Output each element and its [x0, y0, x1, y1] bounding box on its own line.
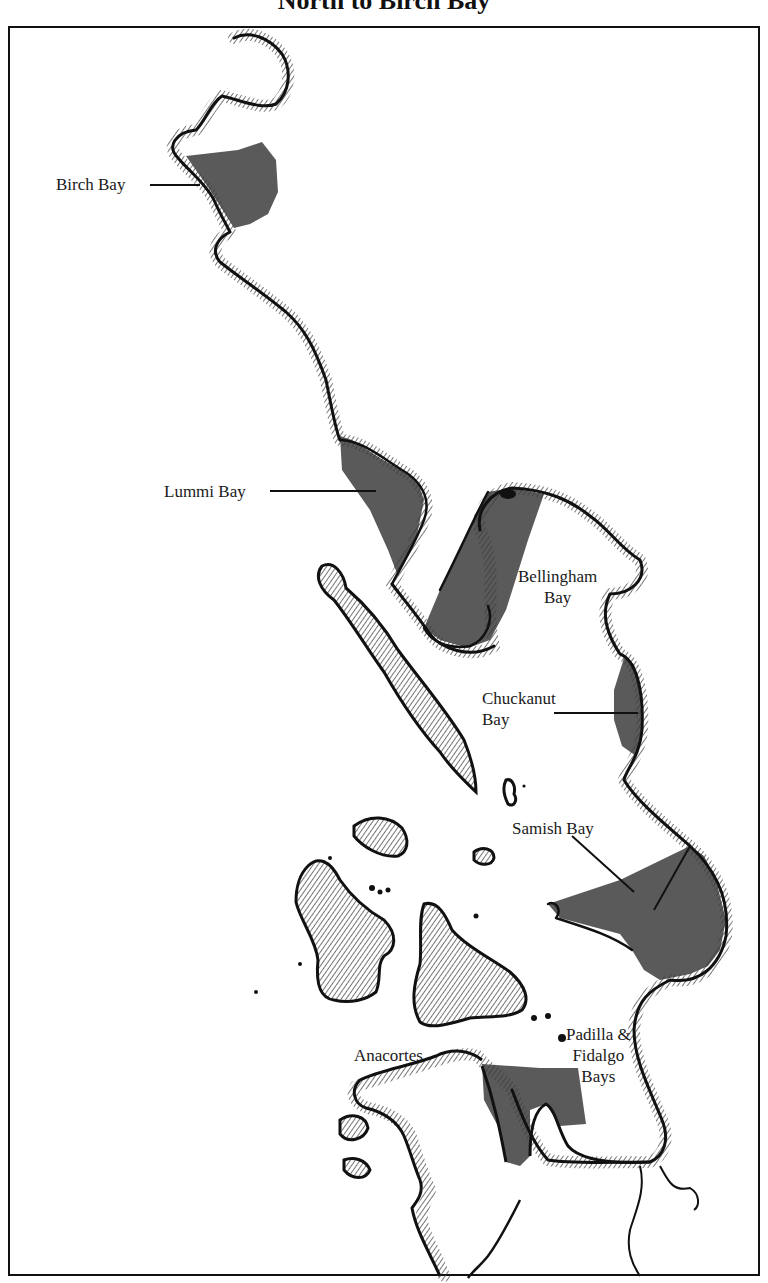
label-bellingham-line2: Bay	[518, 587, 597, 608]
label-chuckanut-bay: Chuckanut Bay	[482, 688, 556, 730]
label-anacortes: Anacortes	[354, 1045, 423, 1066]
label-padilla-fidalgo-bays: Padilla & Fidalgo Bays	[566, 1024, 631, 1087]
mainland-coast	[173, 35, 727, 1276]
label-padilla-line1: Padilla &	[566, 1024, 631, 1045]
label-samish-bay: Samish Bay	[512, 818, 594, 839]
small-island-b	[340, 1116, 368, 1140]
guemes-island	[414, 903, 526, 1025]
label-padilla-line3: Bays	[566, 1066, 631, 1087]
sinclair-island	[296, 861, 394, 1002]
samish-bay-leader	[572, 836, 634, 892]
label-padilla-line2: Fidalgo	[566, 1045, 631, 1066]
label-birch-bay: Birch Bay	[56, 174, 125, 195]
leader-lines	[150, 185, 690, 910]
samish-bay-area	[548, 846, 726, 980]
eliza-island	[354, 818, 407, 856]
label-lummi-bay: Lummi Bay	[164, 481, 246, 502]
vendovi-island	[504, 780, 516, 805]
label-chuckanut-line2: Bay	[482, 709, 556, 730]
small-island-a	[474, 849, 494, 865]
label-bellingham-bay: Bellingham Bay	[518, 566, 597, 608]
label-chuckanut-line1: Chuckanut	[482, 688, 556, 709]
label-bellingham-line1: Bellingham	[518, 566, 597, 587]
small-island-c	[344, 1158, 370, 1177]
